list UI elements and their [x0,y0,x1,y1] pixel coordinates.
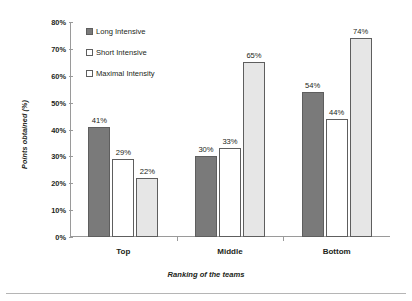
bar [326,119,348,237]
x-axis-category-label: Top [70,247,177,256]
bar-value-label: 29% [101,148,145,157]
bar-value-label: 22% [125,167,169,176]
y-axis-tick-label: 50% [51,98,66,107]
legend-label: Maximal Intensity [96,69,155,78]
legend-swatch-icon [86,49,93,56]
x-axis-category-label: Bottom [283,247,390,256]
bottom-divider [6,293,406,294]
y-axis-tick-label: 70% [51,44,66,53]
y-axis-tick-label: 20% [51,179,66,188]
legend-item[interactable]: Short Intensive [86,47,155,57]
bar-value-label: 65% [232,51,276,60]
x-axis-group-separator [177,237,178,241]
y-axis-tick-label: 80% [51,18,66,27]
legend-label: Long Intensive [96,27,145,36]
bar-value-label: 54% [291,81,335,90]
bar [219,148,241,237]
y-axis-tick-label: 30% [51,152,66,161]
y-axis-tick-mark [69,237,73,238]
bar-value-label: 41% [77,116,121,125]
chart-legend: Long IntensiveShort IntensiveMaximal Int… [86,26,155,89]
y-axis-tick-label: 60% [51,71,66,80]
bar [243,62,265,237]
x-axis-category-label: Middle [177,247,284,256]
bar-chart: Points obtained (%) 0%10%20%30%40%50%60%… [0,0,412,301]
bar-value-label: 74% [339,27,383,36]
y-axis-title: Points obtained (%) [20,55,29,215]
legend-swatch-icon [86,70,93,77]
bar-group: 54%44%74%Bottom [283,22,390,237]
legend-swatch-icon [86,28,93,35]
legend-label: Short Intensive [96,48,147,57]
bar [88,127,110,237]
legend-item[interactable]: Long Intensive [86,26,155,36]
y-axis-tick-label: 0% [55,233,66,242]
bar [136,178,158,237]
bar [350,38,372,237]
x-axis-group-separator [283,237,284,241]
bar-group: 30%33%65%Middle [177,22,284,237]
y-axis-tick-label: 10% [51,206,66,215]
x-axis-title: Ranking of the teams [0,270,412,279]
legend-item[interactable]: Maximal Intensity [86,68,155,78]
bar [195,156,217,237]
y-axis-tick-label: 40% [51,125,66,134]
